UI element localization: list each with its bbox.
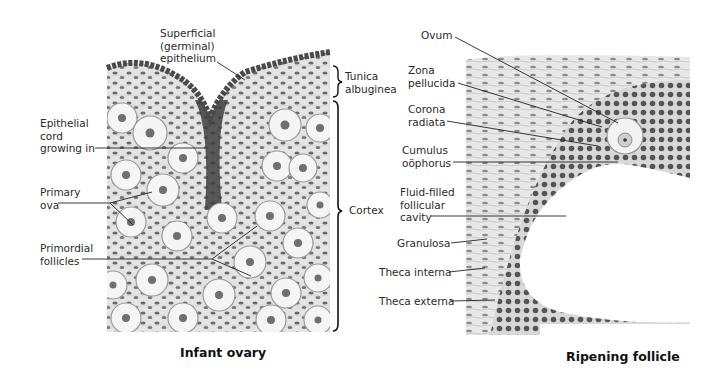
label-granulosa: Granulosa (397, 237, 450, 250)
label-primary-ova: Primary ova (40, 186, 81, 211)
caption-infant-ovary: Infant ovary (180, 345, 266, 360)
tunica-brace (333, 66, 342, 97)
ripening-follicle-tissue (466, 55, 690, 344)
label-theca-interna: Theca interna (379, 266, 451, 279)
caption-ripening-follicle: Ripening follicle (566, 349, 680, 364)
infant-ovary-tissue (99, 45, 340, 340)
label-corona-radiata: Corona radiata (408, 103, 445, 128)
label-primordial-follicles: Primordial follicles (40, 242, 93, 267)
label-superficial-epithelium: Superficial (germinal) epithelium (160, 27, 216, 65)
label-cortex: Cortex (349, 204, 384, 217)
label-cumulus-oophorus: Cumulus oöphorus (402, 144, 451, 169)
cortex-brace (333, 101, 342, 331)
illustration-canvas (0, 0, 723, 384)
label-follicular-cavity: Fluid-filled follicular cavity (400, 186, 455, 224)
label-zona-pellucida: Zona pellucida (408, 64, 455, 89)
label-theca-externa: Theca externa (379, 295, 454, 308)
label-ovum: Ovum (421, 29, 452, 42)
label-epithelial-cord: Epithelial cord growing in (40, 117, 95, 155)
label-tunica-albuginea: Tunica albuginea (345, 70, 397, 95)
